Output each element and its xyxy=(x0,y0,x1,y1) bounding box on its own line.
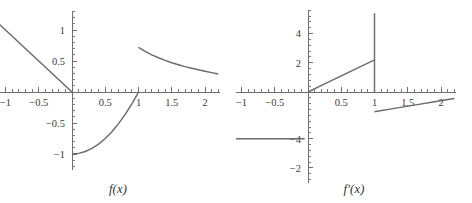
x-tick-label: −0.5 xyxy=(29,97,48,108)
y-tick-label: 2 xyxy=(296,58,301,69)
plot-panel-f-prime: −1−0.50.511.5242−4−2 f′(x) xyxy=(236,0,472,203)
x-tick-label: −1 xyxy=(236,97,247,108)
x-tick-label: 1 xyxy=(372,97,377,108)
y-tick-label: 4 xyxy=(296,28,302,39)
y-tick-label: −2 xyxy=(290,163,301,174)
x-tick-label: 0.5 xyxy=(335,97,348,108)
x-tick-label: −0.5 xyxy=(265,97,284,108)
plot-caption-f-prime: f′(x) xyxy=(236,182,472,197)
plot-panel-f: −1−0.50.511.5210.5−0.5−1 f(x) xyxy=(0,0,236,203)
plot-svg-f-prime: −1−0.50.511.5242−4−2 xyxy=(236,0,472,203)
figure-container: −1−0.50.511.5210.5−0.5−1 f(x) −1−0.50.51… xyxy=(0,0,472,203)
y-tick-label: 0.5 xyxy=(52,56,65,67)
y-tick-label: −0.5 xyxy=(46,118,65,129)
x-tick-label: 2 xyxy=(438,97,443,108)
y-tick-label: 1 xyxy=(60,25,65,36)
x-tick-label: 2 xyxy=(202,97,207,108)
plot-svg-f: −1−0.50.511.5210.5−0.5−1 xyxy=(0,0,236,203)
x-tick-label: 1 xyxy=(136,97,141,108)
curve-right-decaying-branch xyxy=(139,47,219,74)
plot-caption-f: f(x) xyxy=(0,182,236,197)
x-tick-label: 0.5 xyxy=(99,97,112,108)
y-tick-label: −1 xyxy=(54,149,65,160)
x-tick-label: −1 xyxy=(0,97,11,108)
x-tick-label: 1.5 xyxy=(165,97,178,108)
